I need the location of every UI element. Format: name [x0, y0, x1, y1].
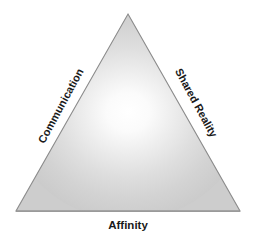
triangle-highlight — [10, 4, 246, 220]
triangle-graphic — [0, 0, 255, 247]
triangle-diagram: Communication Shared Reality Affinity — [0, 0, 255, 247]
edge-label-affinity: Affinity — [108, 220, 148, 232]
